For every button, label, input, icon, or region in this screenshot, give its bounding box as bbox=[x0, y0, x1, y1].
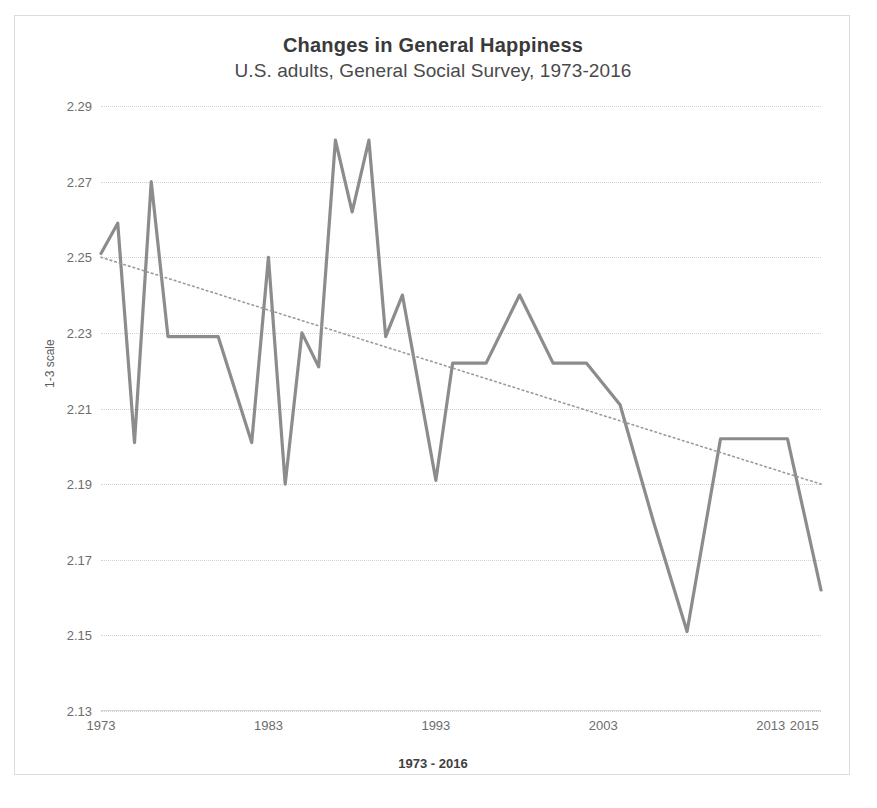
y-axis-tick-label: 2.19 bbox=[67, 477, 92, 492]
y-axis-tick-label: 2.29 bbox=[67, 99, 92, 114]
x-axis-tick-label: 1983 bbox=[254, 718, 283, 733]
x-axis-tick-label: 1973 bbox=[87, 718, 116, 733]
y-axis-tick-label: 2.13 bbox=[67, 704, 92, 719]
x-axis-tick-label: 2003 bbox=[589, 718, 618, 733]
x-axis-title: 1973 - 2016 bbox=[15, 756, 851, 771]
y-axis-tick-label: 2.15 bbox=[67, 628, 92, 643]
x-axis-tick-label: 2015 bbox=[790, 718, 819, 733]
y-axis-tick-label: 2.23 bbox=[67, 325, 92, 340]
y-axis-tick-label: 2.17 bbox=[67, 552, 92, 567]
chart-title: Changes in General Happiness bbox=[15, 32, 851, 58]
chart-frame: Changes in General Happiness U.S. adults… bbox=[14, 15, 850, 775]
y-axis-tick-label: 2.21 bbox=[67, 401, 92, 416]
gridline bbox=[101, 711, 821, 712]
series-layer bbox=[101, 106, 821, 711]
y-axis-tick-label: 2.27 bbox=[67, 174, 92, 189]
x-axis-tick-label: 1993 bbox=[421, 718, 450, 733]
chart-subtitle: U.S. adults, General Social Survey, 1973… bbox=[15, 58, 851, 84]
y-axis-tick-label: 2.25 bbox=[67, 250, 92, 265]
plot-area: 2.292.272.252.232.212.192.172.152.13 197… bbox=[101, 106, 821, 711]
y-axis-title: 1-3 scale bbox=[43, 339, 57, 388]
chart-title-block: Changes in General Happiness U.S. adults… bbox=[15, 32, 851, 84]
data-line bbox=[101, 140, 821, 632]
trendline bbox=[101, 257, 821, 484]
x-axis-tick-label: 2013 bbox=[756, 718, 785, 733]
